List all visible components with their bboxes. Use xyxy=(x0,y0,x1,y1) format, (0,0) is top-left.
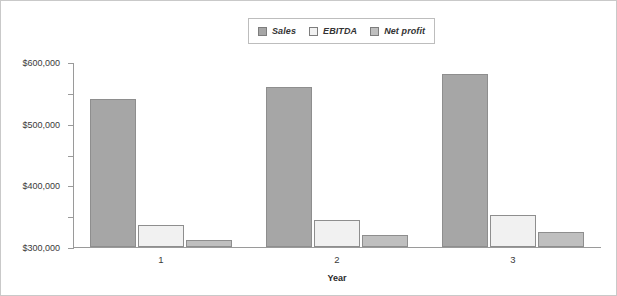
legend-entry-ebitda: EBITDA xyxy=(309,26,357,36)
y-tick-label: $300,000 xyxy=(22,243,60,253)
bar-ebitda-year-3 xyxy=(490,215,536,247)
legend-entry-sales: Sales xyxy=(258,26,296,36)
x-tick-label-3: 3 xyxy=(425,254,601,265)
legend-label-ebitda: EBITDA xyxy=(323,26,357,36)
bar-sales-year-2 xyxy=(266,87,312,247)
bar-group-year-3: 3 xyxy=(425,62,601,247)
bar-ebitda-year-2 xyxy=(314,220,360,247)
bar-net-profit-year-1 xyxy=(186,240,232,247)
y-tick-label: $600,000 xyxy=(22,58,60,68)
y-tick-label: $400,000 xyxy=(22,181,60,191)
bar-ebitda-year-1 xyxy=(138,225,184,247)
x-tick-label-2: 2 xyxy=(249,254,425,265)
legend-swatch-ebitda xyxy=(309,27,318,36)
legend-label-sales: Sales xyxy=(272,26,296,36)
x-tick-label-1: 1 xyxy=(73,254,249,265)
bar-chart-figure: Sales EBITDA Net profit $0$100,000$200,0… xyxy=(0,0,617,296)
y-tick-mark: $0 xyxy=(68,248,73,249)
y-tick-label: $500,000 xyxy=(22,120,60,130)
x-axis-line xyxy=(73,247,601,248)
chart-legend: Sales EBITDA Net profit xyxy=(248,18,435,44)
bar-sales-year-1 xyxy=(90,99,136,247)
legend-swatch-sales xyxy=(258,27,267,36)
bar-sales-year-3 xyxy=(442,74,488,247)
legend-swatch-net-profit xyxy=(370,27,379,36)
bar-net-profit-year-3 xyxy=(538,232,584,247)
plot-area: $0$100,000$200,000$300,000$400,000$500,0… xyxy=(73,63,601,248)
bar-net-profit-year-2 xyxy=(362,235,408,247)
bar-group-year-2: 2 xyxy=(249,62,425,247)
legend-entry-net-profit: Net profit xyxy=(370,26,425,36)
x-axis-title: Year xyxy=(73,273,601,283)
bar-group-year-1: 1 xyxy=(73,62,249,247)
legend-label-net-profit: Net profit xyxy=(384,26,425,36)
